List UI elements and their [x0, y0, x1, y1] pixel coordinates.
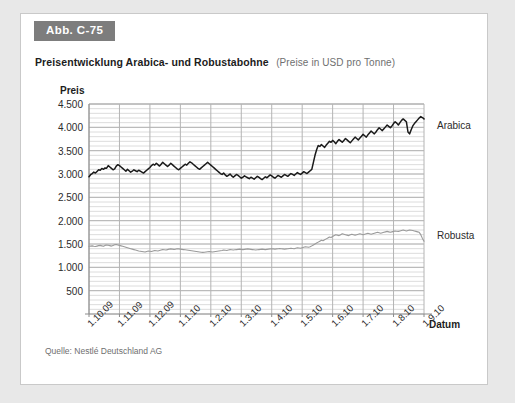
y-tick-label: 500: [37, 285, 83, 296]
y-tick-label: 2.000: [37, 215, 83, 226]
minor-gridlines: [89, 104, 424, 314]
series-line-arabica: [89, 117, 424, 180]
y-tick-label: 3.000: [37, 169, 83, 180]
line-chart: Preis Datum 5001.0001.5002.0002.5003.000…: [21, 14, 489, 386]
y-tick-label: 1.000: [37, 262, 83, 273]
series-label-arabica: Arabica: [437, 120, 471, 131]
y-tick-label: 4.000: [37, 122, 83, 133]
y-tick-label: 2.500: [37, 192, 83, 203]
figure-card: Abb. C-75 Preisentwicklung Arabica- und …: [20, 13, 488, 385]
y-tick-label: 4.500: [37, 99, 83, 110]
source-note: Quelle: Nestlé Deutschland AG: [45, 346, 162, 356]
series-label-robusta: Robusta: [437, 229, 474, 240]
y-axis-title: Preis: [60, 85, 84, 96]
y-tick-label: 3.500: [37, 145, 83, 156]
y-tick-label: 1.500: [37, 239, 83, 250]
axis-lines: [89, 104, 432, 314]
plot-area: [21, 14, 489, 386]
vertical-gridlines: [89, 104, 424, 314]
